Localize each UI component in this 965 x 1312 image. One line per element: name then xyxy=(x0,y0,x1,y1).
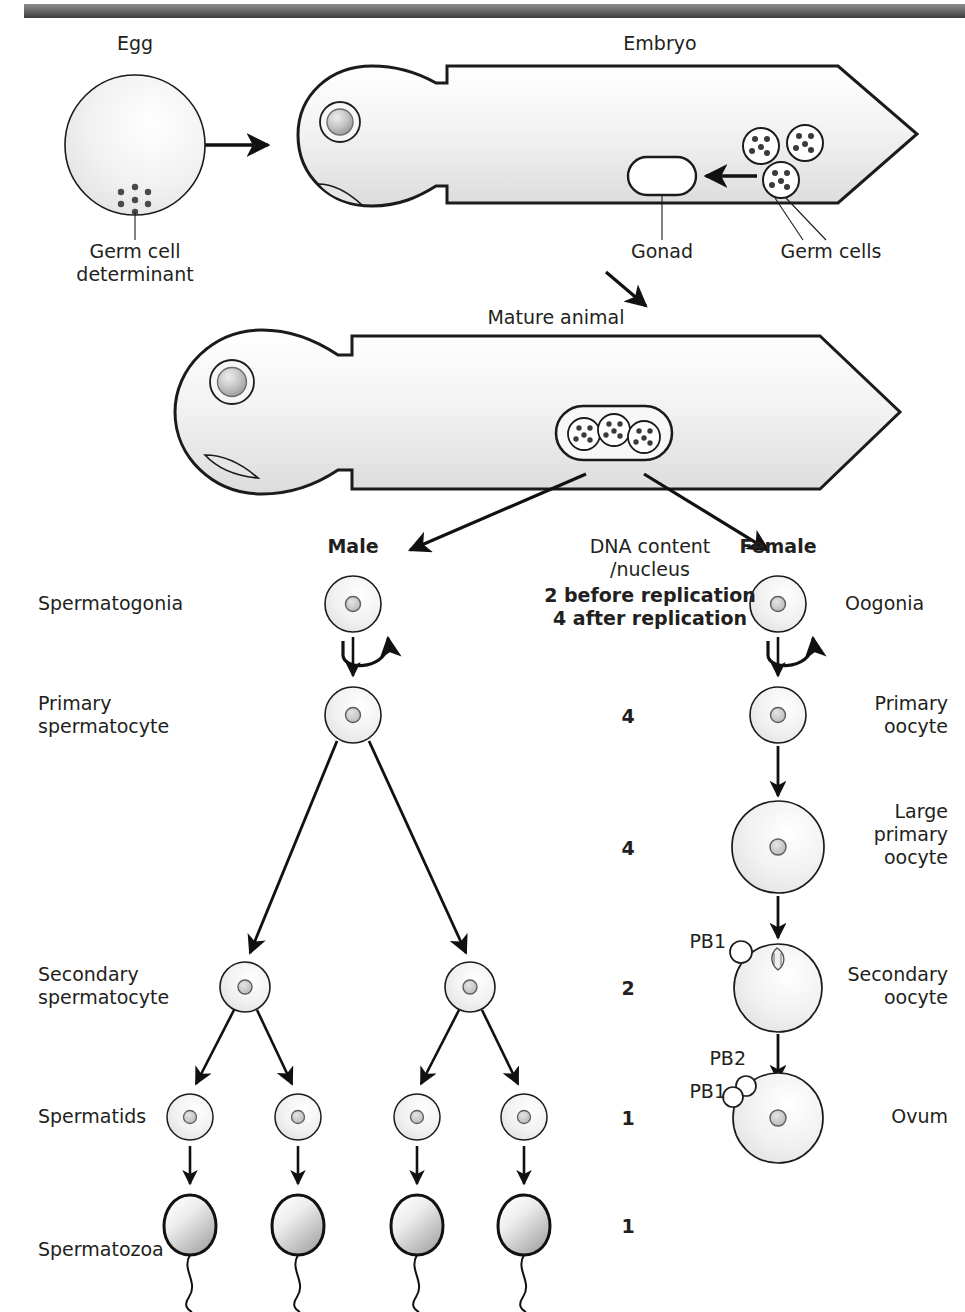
diagram-canvas: Egg Germ cell determinant Embryo Gonad G… xyxy=(0,0,965,1312)
embryo-to-mature-arrow xyxy=(606,272,646,306)
dna-note-before-replication: 2 before replication xyxy=(525,584,775,607)
meiosis-i-right-arrow xyxy=(369,741,466,953)
germ-cells-label: Germ cells xyxy=(758,240,904,263)
meiosis-i-left-arrow xyxy=(250,741,337,953)
mature-animal-gonad xyxy=(556,406,672,460)
secondary-spermatocyte-cell-right xyxy=(445,962,495,1012)
label-spermatids: Spermatids xyxy=(38,1105,268,1128)
mature-animal-label: Mature animal xyxy=(438,306,674,329)
label-pb1-ovum: PB1 xyxy=(670,1080,726,1103)
meiosis-ii-arrow-4 xyxy=(482,1010,518,1084)
male-branch-label: Male xyxy=(308,535,398,558)
embryo-label: Embryo xyxy=(560,32,760,55)
germ-cell-determinant-label: Germ cell determinant xyxy=(45,240,225,286)
spermatozoon-3 xyxy=(391,1195,443,1312)
spermatozoon-2 xyxy=(272,1195,324,1312)
dna-content-header-line1: DNA content xyxy=(540,535,760,558)
label-secondary-spermatocyte: Secondary spermatocyte xyxy=(38,963,268,1009)
large-primary-oocyte-cell xyxy=(732,801,824,893)
label-spermatozoa: Spermatozoa xyxy=(38,1238,268,1261)
egg-label: Egg xyxy=(85,32,185,55)
dna-value-spermatozoa: 1 xyxy=(608,1215,648,1238)
gonad-label: Gonad xyxy=(600,240,724,263)
label-primary-oocyte: Primary oocyte xyxy=(820,692,948,738)
meiosis-ii-arrow-2 xyxy=(257,1010,292,1084)
label-pb2-ovum: PB2 xyxy=(690,1047,746,1070)
spermatid-cell-2 xyxy=(275,1094,321,1140)
egg-cell xyxy=(65,75,205,240)
embryo-body xyxy=(298,66,917,206)
primary-spermatocyte-cell xyxy=(325,687,381,743)
meiosis-ii-arrow-1 xyxy=(196,1010,234,1084)
spermatid-cell-4 xyxy=(501,1094,547,1140)
label-primary-spermatocyte: Primary spermatocyte xyxy=(38,692,268,738)
dna-note-after-replication: 4 after replication xyxy=(525,607,775,630)
label-large-primary-oocyte: Large primary oocyte xyxy=(820,800,948,869)
label-ovum: Ovum xyxy=(820,1105,948,1128)
dna-value-primary: 4 xyxy=(608,705,648,728)
mature-animal-body xyxy=(175,330,900,494)
spermatid-cell-3 xyxy=(394,1094,440,1140)
dna-value-secondary: 2 xyxy=(608,977,648,1000)
label-pb1-secondary-oocyte: PB1 xyxy=(670,930,726,953)
dna-value-large-primary: 4 xyxy=(608,837,648,860)
dna-value-haploid-gametes: 1 xyxy=(608,1107,648,1130)
spermatogonium-cell xyxy=(325,576,381,632)
male-self-renewal-loop xyxy=(343,638,388,666)
primary-oocyte-cell xyxy=(750,687,806,743)
polar-body-1-ovum xyxy=(723,1087,743,1107)
label-secondary-oocyte: Secondary oocyte xyxy=(820,963,948,1009)
meiosis-ii-arrow-3 xyxy=(421,1010,459,1084)
female-self-renewal-loop xyxy=(768,638,813,666)
spermatozoon-4 xyxy=(498,1195,550,1312)
dna-content-header-line2: /nucleus xyxy=(540,558,760,581)
polar-body-1-secondary-oocyte xyxy=(730,941,752,963)
label-oogonia: Oogonia xyxy=(845,592,965,615)
label-spermatogonia: Spermatogonia xyxy=(38,592,268,615)
